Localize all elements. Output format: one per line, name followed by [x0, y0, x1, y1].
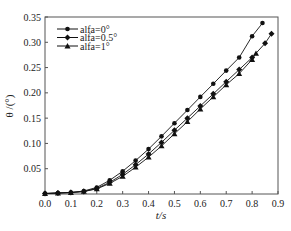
x-tick-label: 0.2: [91, 198, 104, 209]
legend-label: alfa=1°: [80, 41, 110, 52]
x-axis-label: t/s: [156, 209, 166, 221]
y-tick-label: 0.05: [24, 163, 42, 174]
circle-marker-icon: [159, 134, 164, 139]
x-tick-label: 0.9: [272, 198, 285, 209]
line-chart: 0.00.10.20.30.40.50.60.70.80.9 0.050.100…: [0, 0, 291, 231]
x-tick-label: 0.4: [142, 198, 155, 209]
y-axis: 0.050.100.150.200.250.300.35: [24, 12, 49, 175]
circle-marker-icon: [198, 95, 203, 100]
y-tick-label: 0.35: [24, 12, 42, 23]
x-tick-label: 0.7: [220, 198, 233, 209]
series-line: [45, 23, 263, 193]
circle-marker-icon: [211, 81, 216, 86]
circle-marker-icon: [65, 27, 70, 32]
data-series: [42, 21, 275, 197]
legend: alfa=0°alfa=0.5°alfa=1°: [57, 24, 117, 52]
circle-marker-icon: [250, 34, 255, 39]
series-line: [45, 53, 256, 193]
series-0: [43, 21, 265, 196]
x-tick-label: 0.1: [65, 198, 78, 209]
x-tick-label: 0.3: [116, 198, 129, 209]
y-tick-label: 0.10: [24, 138, 42, 149]
x-tick-label: 0.8: [246, 198, 259, 209]
x-tick-label: 0.6: [194, 198, 207, 209]
y-tick-label: 0.15: [24, 113, 42, 124]
diamond-marker-icon: [269, 31, 275, 37]
circle-marker-icon: [146, 147, 151, 152]
circle-marker-icon: [237, 55, 242, 60]
x-tick-label: 0.0: [39, 198, 52, 209]
diamond-marker-icon: [65, 35, 71, 41]
legend-item: alfa=1°: [57, 41, 110, 52]
y-axis-label: θ /(°): [3, 94, 16, 117]
x-tick-label: 0.5: [168, 198, 181, 209]
circle-marker-icon: [224, 68, 229, 73]
circle-marker-icon: [172, 121, 177, 126]
y-tick-label: 0.20: [24, 87, 42, 98]
circle-marker-icon: [185, 108, 190, 113]
y-tick-label: 0.25: [24, 62, 42, 73]
y-tick-label: 0.30: [24, 37, 42, 48]
circle-marker-icon: [260, 21, 265, 26]
